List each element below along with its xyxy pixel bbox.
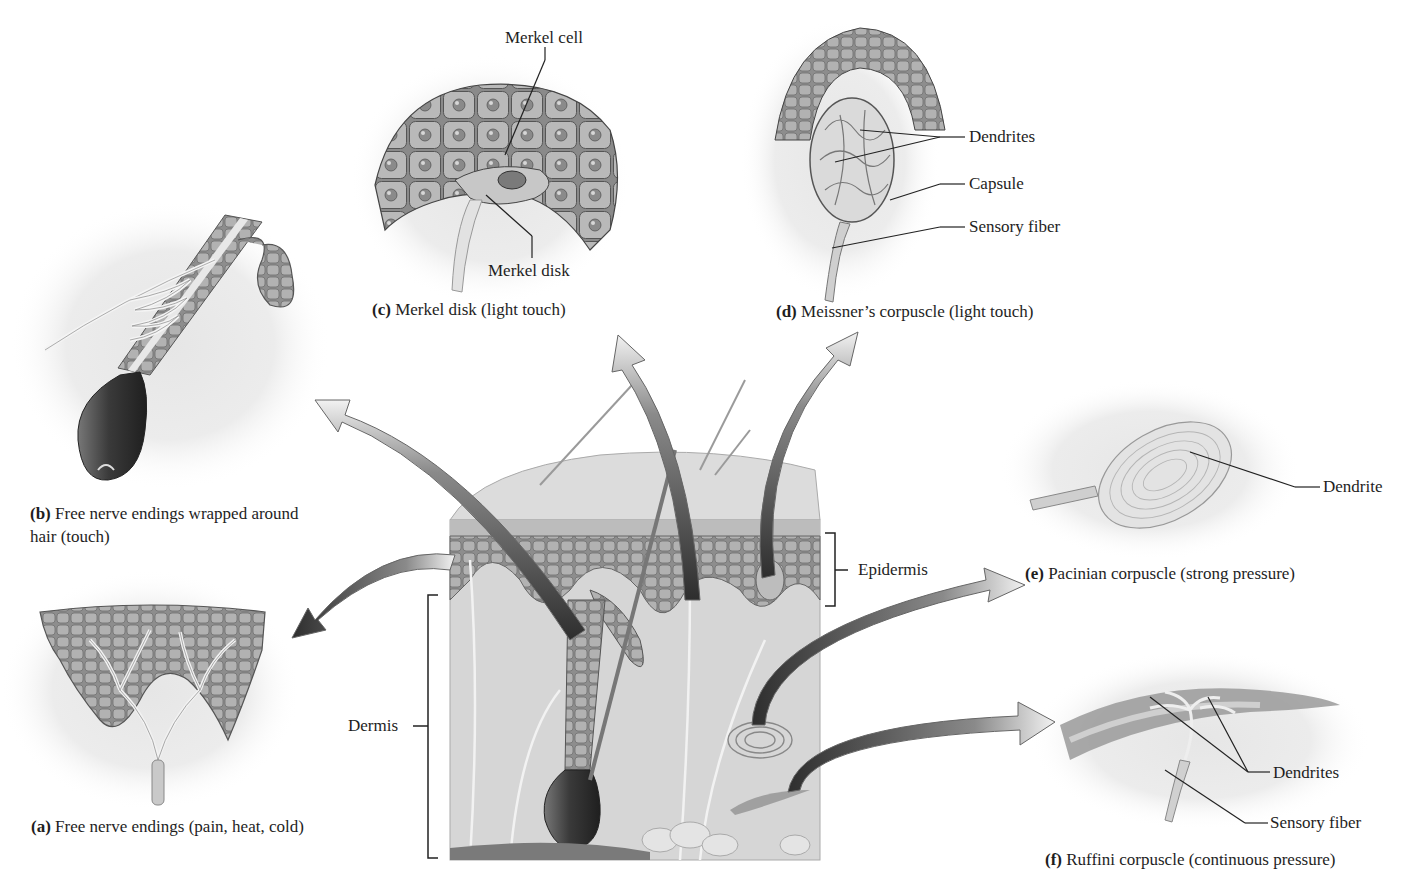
label-dendrite-e: Dendrite — [1323, 476, 1382, 498]
label-merkel-cell: Merkel cell — [505, 27, 583, 49]
label-sensory-fiber-f: Sensory fiber — [1270, 812, 1361, 834]
caption-b-letter: (b) — [30, 504, 51, 523]
caption-b: (b) Free nerve endings wrapped around ha… — [30, 502, 320, 548]
panel-d-art — [740, 20, 965, 302]
label-merkel-disk: Merkel disk — [488, 260, 570, 282]
caption-c: (c) Merkel disk (light touch) — [372, 298, 566, 321]
label-capsule: Capsule — [969, 173, 1024, 195]
caption-c-text: Merkel disk (light touch) — [395, 300, 565, 319]
label-dendrites-d: Dendrites — [969, 126, 1035, 148]
caption-f-text: Ruffini corpuscle (continuous pressure) — [1066, 850, 1335, 869]
caption-d: (d) Meissner’s corpuscle (light touch) — [776, 300, 1033, 323]
caption-e-text: Pacinian corpuscle (strong pressure) — [1048, 564, 1295, 583]
panel-e-art — [1000, 380, 1320, 560]
caption-f-letter: (f) — [1045, 850, 1062, 869]
label-dermis: Dermis — [348, 715, 398, 737]
caption-e-letter: (e) — [1025, 564, 1044, 583]
label-epidermis: Epidermis — [858, 559, 928, 581]
panel-f-art — [1030, 650, 1370, 830]
panel-a-art — [0, 570, 300, 810]
skin-cross-section-art — [450, 380, 820, 860]
caption-a-letter: (a) — [31, 817, 51, 836]
caption-c-letter: (c) — [372, 300, 391, 319]
skin-receptors-illustration — [0, 0, 1416, 894]
caption-d-letter: (d) — [776, 302, 797, 321]
panel-b-art — [10, 200, 330, 490]
label-sensory-fiber-d: Sensory fiber — [969, 216, 1060, 238]
caption-a: (a) Free nerve endings (pain, heat, cold… — [31, 815, 304, 838]
caption-d-text: Meissner’s corpuscle (light touch) — [801, 302, 1033, 321]
caption-a-text: Free nerve endings (pain, heat, cold) — [55, 817, 304, 836]
caption-f: (f) Ruffini corpuscle (continuous pressu… — [1045, 848, 1336, 871]
label-dendrites-f: Dendrites — [1273, 762, 1339, 784]
caption-b-text: Free nerve endings wrapped around hair (… — [30, 504, 299, 546]
caption-e: (e) Pacinian corpuscle (strong pressure) — [1025, 562, 1295, 585]
